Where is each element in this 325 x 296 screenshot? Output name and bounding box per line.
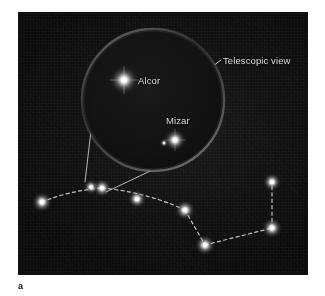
star-alcor-sky-core xyxy=(89,185,92,188)
mizar-label: Mizar xyxy=(166,115,190,126)
sky-overlay xyxy=(18,12,308,275)
alcor-label: Alcor xyxy=(138,75,160,86)
night-sky-panel: Telescopic view Alcor Mizar xyxy=(18,12,308,275)
astronomy-figure: Telescopic view Alcor Mizar a xyxy=(0,0,325,296)
panel-letter-label: a xyxy=(18,281,23,291)
telescopic-inset-circle xyxy=(82,29,224,171)
telescopic-view-label: Telescopic view xyxy=(223,55,291,66)
star-bowl-outer-top-core xyxy=(270,180,274,184)
star-mizar-inset-companion-core xyxy=(163,142,165,144)
star-handle-tip-core xyxy=(40,200,44,204)
constellation-lines xyxy=(42,182,272,245)
star-bowl-outer-bottom-core xyxy=(270,226,274,230)
star-bowl-inner-bottom-core xyxy=(203,243,207,247)
star-mizar-sky-core xyxy=(100,186,104,190)
constellation-stars xyxy=(31,172,283,256)
star-handle-bowl-join-core xyxy=(183,208,187,212)
star-handle-mid-core xyxy=(135,197,139,201)
